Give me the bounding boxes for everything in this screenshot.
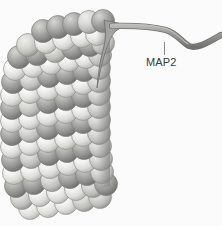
microtubule-map2-figure: MAP2 <box>0 0 222 226</box>
figure-canvas <box>0 0 222 226</box>
microtubule-edge-shadow <box>96 21 110 190</box>
microtubule <box>1 10 118 220</box>
map2-label: MAP2 <box>146 56 176 68</box>
